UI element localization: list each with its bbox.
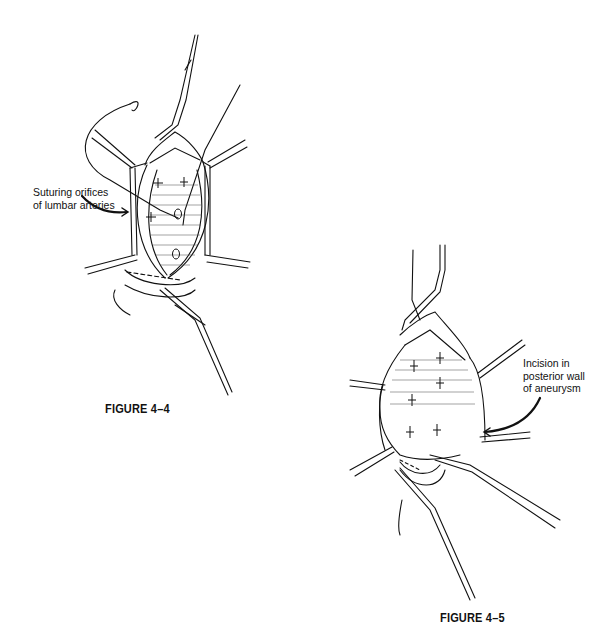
- surgical-illustration-posterior-incision: [0, 0, 607, 630]
- figure-4-5: Incision in posterior wall of aneurysm F…: [0, 0, 607, 630]
- annotation-incision: Incision in posterior wall of aneurysm: [523, 357, 585, 395]
- figure-caption: FIGURE 4–5: [440, 611, 505, 625]
